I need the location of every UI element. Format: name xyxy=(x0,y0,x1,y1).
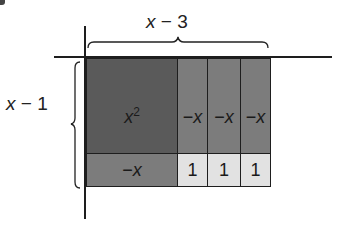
neg-x-sign: − xyxy=(183,107,194,127)
top-label-op: − xyxy=(156,11,178,32)
unit-tile: 1 xyxy=(240,153,271,187)
unit-label: 1 xyxy=(187,160,197,181)
neg-x-column-tile: −x xyxy=(240,58,271,154)
unit-label: 1 xyxy=(219,160,229,181)
neg-x-row-tile: −x xyxy=(86,153,178,187)
left-dimension-label: x − 1 xyxy=(6,93,48,115)
neg-x-column-tile: −x xyxy=(207,58,241,154)
left-label-num: 1 xyxy=(37,93,48,114)
x-squared-label: x2 xyxy=(124,107,140,128)
left-label-var: x xyxy=(6,93,16,114)
neg-x-sign: − xyxy=(214,107,225,127)
unit-label: 1 xyxy=(250,160,260,181)
x-squared-base: x xyxy=(124,107,133,127)
unit-tile: 1 xyxy=(177,153,208,187)
neg-x-var: x xyxy=(193,107,202,127)
neg-x-row-var: x xyxy=(133,160,142,180)
neg-x-row-label: −x xyxy=(122,160,142,181)
x-squared-exp: 2 xyxy=(133,105,140,119)
top-dimension-label: x − 3 xyxy=(146,11,188,33)
top-label-var: x xyxy=(146,11,156,32)
neg-x-var: x xyxy=(256,107,265,127)
x-squared-tile: x2 xyxy=(86,58,178,154)
neg-x-sign: − xyxy=(246,107,257,127)
neg-x-column-tile: −x xyxy=(177,58,208,154)
left-brace-icon xyxy=(68,60,82,190)
neg-x-row-sign: − xyxy=(122,160,133,180)
neg-x-label: −x xyxy=(183,107,203,128)
unit-tile: 1 xyxy=(207,153,241,187)
top-label-num: 3 xyxy=(177,11,188,32)
left-label-op: − xyxy=(16,93,38,114)
neg-x-label: −x xyxy=(246,107,266,128)
top-brace-icon xyxy=(86,34,270,50)
neg-x-var: x xyxy=(225,107,234,127)
corner-mark xyxy=(0,0,5,5)
neg-x-label: −x xyxy=(214,107,234,128)
